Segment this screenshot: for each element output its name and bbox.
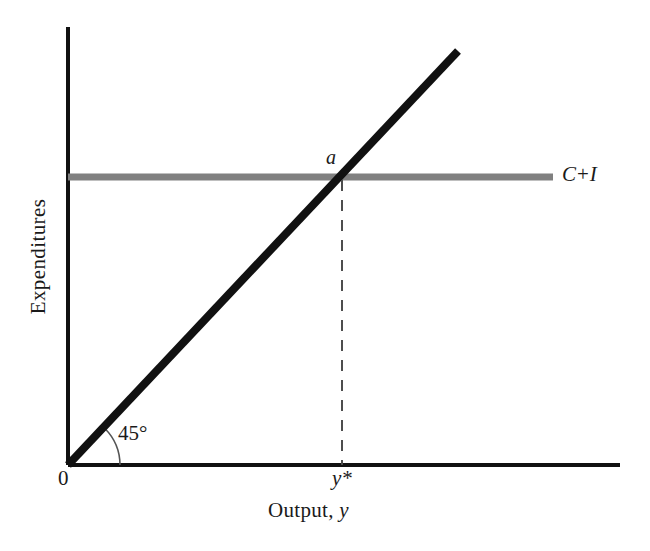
x-axis-label-variable: y [339, 498, 349, 522]
label-plus-sign: + [576, 162, 590, 186]
angle-label-45-degrees: 45° [118, 423, 147, 444]
chart-canvas [0, 0, 650, 551]
y-axis-label: Expenditures [28, 157, 49, 357]
origin-label: 0 [58, 468, 69, 489]
equilibrium-output-label-y-star: y* [332, 468, 352, 489]
x-axis-label-text: Output, [268, 498, 334, 522]
forty-five-degree-line [68, 51, 458, 465]
expenditure-line-label-c-plus-i: C+I [562, 164, 597, 185]
label-investment-i: I [590, 162, 597, 186]
x-axis-label: Output, y [268, 500, 349, 521]
label-consumption-c: C [562, 162, 576, 186]
keynesian-cross-figure: Expenditures Output, y 0 45° a y* C+I [0, 0, 650, 551]
equilibrium-point-label-a: a [326, 147, 336, 167]
